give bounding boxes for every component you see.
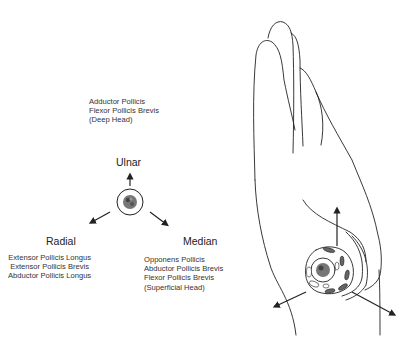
- hand-outline-icon: [0, 0, 414, 347]
